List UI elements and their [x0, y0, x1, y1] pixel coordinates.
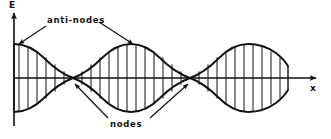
- anti-nodes-leaders: [19, 22, 133, 44]
- nodes-label: nodes: [110, 120, 142, 129]
- anti-nodes-leader-right: [99, 22, 133, 44]
- x-axis-label: x: [310, 84, 316, 93]
- y-axis-label: E: [9, 1, 15, 10]
- anti-nodes-label: anti-nodes: [47, 16, 105, 25]
- standing-wave-figure: E x anti-nodes nodes: [0, 0, 331, 139]
- anti-nodes-leader-left: [19, 26, 46, 44]
